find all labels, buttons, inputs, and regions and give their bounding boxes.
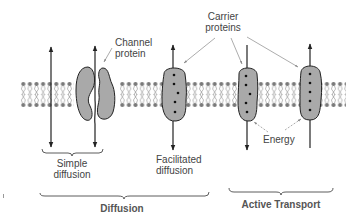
energy-pointers: [254, 119, 301, 132]
simple-diffusion-label-line1: Simple: [53, 158, 90, 169]
carrier-proteins-pointers: [184, 37, 298, 67]
channel-protein-label: Channel protein: [115, 37, 152, 59]
diffusion-group-label: Diffusion: [100, 203, 143, 214]
simple-diffusion-label-line2: diffusion: [53, 169, 90, 180]
simple-diffusion-label: Simple diffusion: [53, 158, 90, 180]
channel-protein: [74, 46, 120, 147]
facilitated-diffusion-label: Facilitated diffusion: [156, 154, 202, 176]
carrier-proteins-label: Carrier proteins: [205, 11, 241, 33]
facilitated-diffusion-label-line1: Facilitated: [156, 154, 202, 165]
carrier-proteins-label-line1: Carrier: [205, 11, 241, 22]
diagram-canvas: [0, 0, 361, 219]
channel-protein-label-line1: Channel: [115, 37, 152, 48]
facilitated-carrier-protein: [162, 45, 186, 150]
channel-protein-pointer: [104, 48, 112, 62]
carrier-proteins-label-line2: proteins: [205, 22, 241, 33]
channel-protein-label-line2: protein: [115, 48, 152, 59]
diffusion-brace: [40, 192, 209, 199]
membrane-transport-diagram: Channel protein Carrier proteins Energy …: [0, 0, 361, 219]
active-transport-brace: [229, 188, 333, 195]
energy-label: Energy: [263, 134, 295, 145]
edge-mark: [3, 194, 4, 198]
facilitated-diffusion-label-line2: diffusion: [156, 165, 202, 176]
active-transport-group-label: Active Transport: [242, 199, 321, 210]
simple-diffusion-brace: [42, 149, 103, 156]
active-carrier-protein-2: [300, 44, 322, 148]
